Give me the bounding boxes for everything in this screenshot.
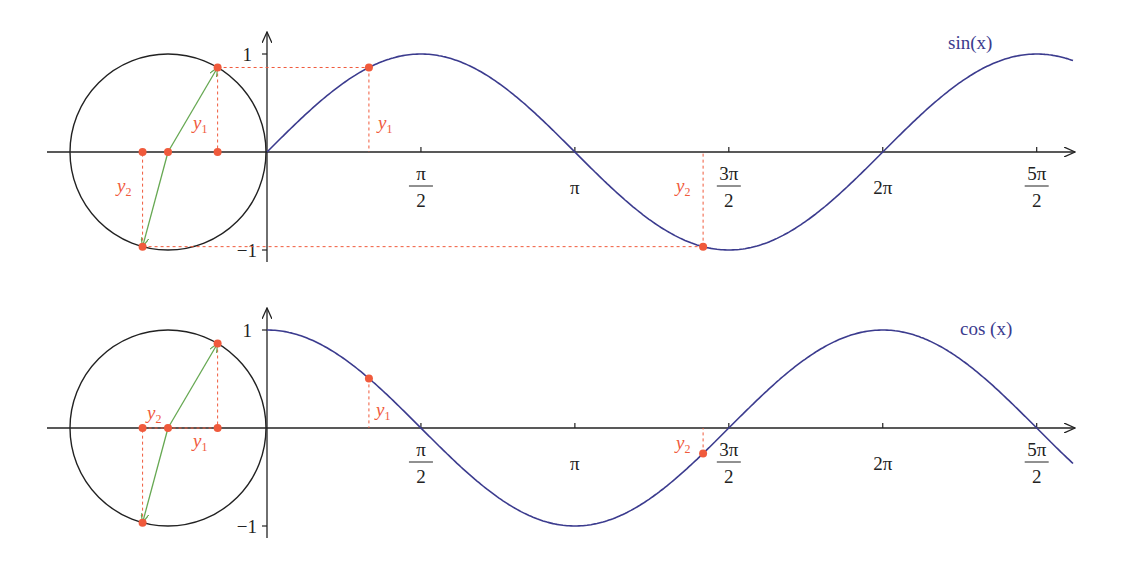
marked-point [214,339,222,347]
x-tick-label: 2π [873,177,893,198]
y-tick-label-bottom: −1 [237,240,257,261]
marked-point [139,243,147,251]
marked-point [214,424,222,432]
marked-point [365,374,373,382]
x-tick-label: 2π [873,453,893,474]
x-tick-denominator: 2 [1032,466,1042,487]
x-tick-label: π [570,453,580,474]
marked-point [139,424,147,432]
y2-label-graph: y2 [674,432,690,456]
x-tick-denominator: 2 [416,190,426,211]
radius-vector [143,428,168,523]
marked-point [139,148,147,156]
x-tick-denominator: 2 [724,466,734,487]
radius-vector [143,152,168,247]
y1-label-circle: y1 [191,112,207,136]
y1-label-circle: y1 [191,430,207,454]
y2-label-circle: y2 [145,402,161,426]
radius-vector [168,343,218,428]
x-tick-denominator: 2 [1032,190,1042,211]
x-tick-denominator: 2 [416,466,426,487]
y1-label-graph: y1 [374,399,390,423]
marked-point [139,519,147,527]
x-tick-numerator: π [416,163,426,184]
cos-panel: 1−1π2π3π22π5π2cos (x)y2y1y1y2 [47,308,1075,538]
y1-label-graph: y1 [376,112,392,136]
y-tick-label-top: 1 [243,44,253,65]
x-tick-numerator: 5π [1027,163,1047,184]
x-tick-label: π [570,177,580,198]
y2-label-circle: y2 [115,175,131,199]
trig-diagram: 1−1π2π3π22π5π2sin(x)y1y2y1y2 1−1π2π3π22π… [0,0,1130,567]
marked-point [699,243,707,251]
marked-point [164,424,172,432]
x-tick-numerator: 5π [1027,439,1047,460]
marked-point [365,63,373,71]
curve-label: sin(x) [948,32,992,54]
radius-vector [168,67,218,152]
marked-point [214,63,222,71]
curve-label: cos (x) [960,318,1012,340]
y-tick-label-top: 1 [243,320,253,341]
x-tick-numerator: 3π [719,163,739,184]
marked-point [214,148,222,156]
y2-label-graph: y2 [674,175,690,199]
y-tick-label-bottom: −1 [237,516,257,537]
x-tick-numerator: 3π [719,439,739,460]
x-tick-denominator: 2 [724,190,734,211]
marked-point [699,449,707,457]
x-tick-numerator: π [416,439,426,460]
marked-point [164,148,172,156]
sin-panel: 1−1π2π3π22π5π2sin(x)y1y2y1y2 [47,32,1075,262]
